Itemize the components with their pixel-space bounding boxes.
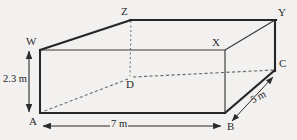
edge-z-d-hidden-vertical — [130, 21, 131, 76]
height-dimension-label: 2.3 m — [2, 74, 28, 85]
edge-d-c-hidden-bottom-back — [133, 70, 274, 77]
vertex-label-y: Y — [278, 7, 286, 18]
cuboid-figure: A B W X Z Y C D 2.3 m 7 m 5 m — [0, 0, 297, 140]
edge-x-y-top-right-slant — [225, 20, 275, 50]
vertex-label-d: D — [126, 79, 134, 90]
vertex-label-a: A — [29, 116, 37, 127]
hidden-edges-group — [42, 21, 274, 112]
vertex-label-z: Z — [121, 6, 128, 17]
vertex-label-c: C — [279, 58, 286, 69]
edge-w-z-top-left-slant — [40, 20, 131, 50]
edge-d-a-hidden-slant — [42, 79, 128, 112]
dimension-arrows-group — [29, 51, 273, 126]
vertex-label-x: X — [212, 37, 220, 48]
cuboid-svg-canvas — [0, 0, 297, 140]
vertex-label-w: W — [26, 36, 36, 47]
length-dimension-label: 7 m — [110, 119, 128, 130]
edge-b-c-bottom-right-slant — [225, 70, 275, 113]
vertex-label-b: B — [227, 121, 234, 132]
